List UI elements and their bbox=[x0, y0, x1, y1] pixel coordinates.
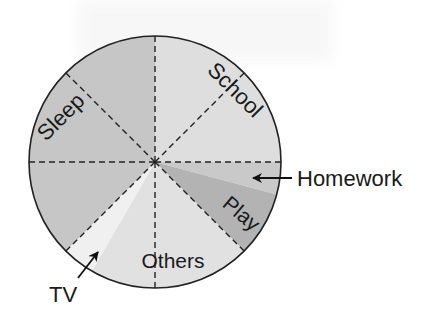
pie-chart: Sleep School Play Others Homework TV bbox=[0, 0, 427, 310]
label-tv: TV bbox=[49, 282, 77, 307]
label-homework: Homework bbox=[297, 166, 403, 191]
label-others: Others bbox=[141, 249, 204, 272]
